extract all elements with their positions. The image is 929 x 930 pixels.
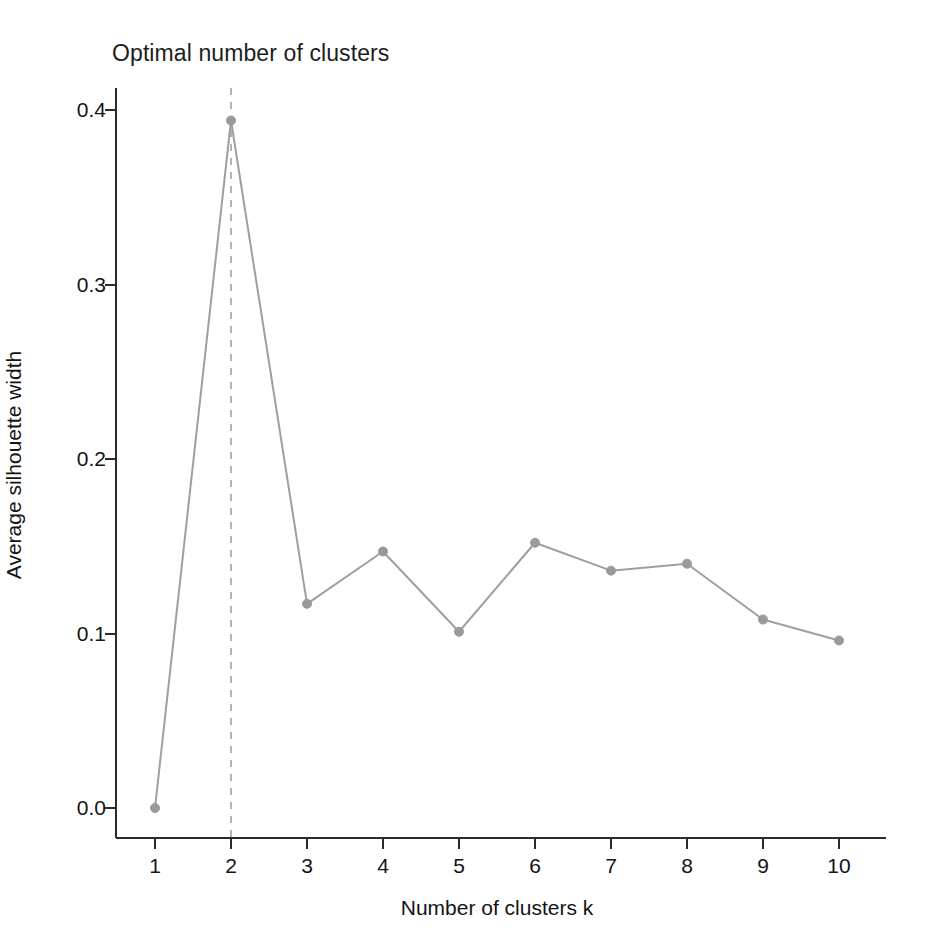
data-point-k7 xyxy=(607,566,616,575)
x-axis-ticks xyxy=(155,838,839,849)
y-axis-ticks xyxy=(105,110,116,808)
data-point-k1 xyxy=(151,804,160,813)
data-point-k6 xyxy=(531,538,540,547)
data-point-k5 xyxy=(455,627,464,636)
plot-area xyxy=(0,0,929,930)
data-point-k8 xyxy=(683,559,692,568)
data-point-k3 xyxy=(303,599,312,608)
data-point-k9 xyxy=(759,615,768,624)
silhouette-series-line xyxy=(155,120,839,808)
silhouette-series-markers xyxy=(151,116,844,813)
data-point-k4 xyxy=(379,547,388,556)
silhouette-chart: Optimal number of clusters Average silho… xyxy=(0,0,929,930)
data-point-k2 xyxy=(227,116,236,125)
data-point-k10 xyxy=(835,636,844,645)
